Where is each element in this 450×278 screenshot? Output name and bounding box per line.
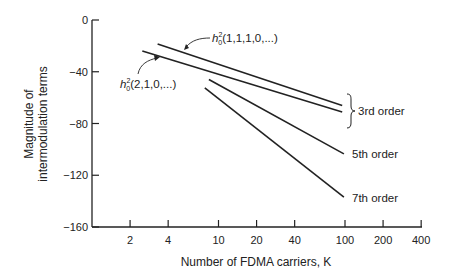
y-axis-title: Magnitude of intermodulation terms <box>22 66 50 181</box>
annotation-leader-upper <box>186 38 210 47</box>
y-tick-label: −120 <box>63 169 88 181</box>
label-7th-order: 7th order <box>352 192 398 204</box>
series-line <box>158 44 343 106</box>
x-tick-label: 400 <box>412 234 430 246</box>
intermodulation-chart: 0−40−80−120−160 24102040100200400 Magnit… <box>0 0 450 278</box>
y-tick-label: 0 <box>82 14 88 26</box>
x-tick-label: 40 <box>289 234 301 246</box>
label-5th-order: 5th order <box>352 148 398 160</box>
x-tick-label: 4 <box>165 234 171 246</box>
svg-text:h20(1,1,1,0,...): h20(1,1,1,0,...) <box>212 31 278 46</box>
label-3rd-order: 3rd order <box>358 105 405 117</box>
y-tick-label: −160 <box>63 221 88 233</box>
series-lines <box>142 44 344 197</box>
ann-upper-args: (1,1,1,0,...) <box>222 32 278 44</box>
annotation-leader-lower <box>138 58 157 74</box>
x-ticks: 24102040100200400 <box>127 220 430 246</box>
brace-3rd-order <box>347 94 355 128</box>
y-tick-label: −80 <box>69 118 88 130</box>
y-ticks: 0−40−80−120−160 <box>63 14 99 233</box>
annotation-h0-210: h20(2,1,0,...) <box>120 55 176 92</box>
x-axis-title: Number of FDMA carriers, K <box>181 255 332 269</box>
x-tick-label: 200 <box>374 234 392 246</box>
y-axis-title-line2: intermodulation terms <box>36 66 50 181</box>
series-line <box>209 80 344 154</box>
x-tick-label: 2 <box>127 234 133 246</box>
x-tick-label: 10 <box>212 234 224 246</box>
y-tick-label: −40 <box>69 66 88 78</box>
ann-lower-args: (2,1,0,...) <box>130 78 176 90</box>
x-tick-label: 100 <box>336 234 354 246</box>
annotation-h0-1110: h20(1,1,1,0,...) <box>184 31 278 50</box>
svg-text:h20(2,1,0,...): h20(2,1,0,...) <box>120 77 176 92</box>
y-axis-title-line1: Magnitude of <box>22 89 36 159</box>
x-tick-label: 20 <box>250 234 262 246</box>
